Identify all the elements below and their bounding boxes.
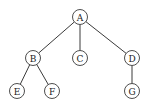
node-e: E <box>10 84 25 99</box>
edge-b-e <box>20 65 29 85</box>
node-label: B <box>30 54 37 64</box>
node-f: F <box>45 84 60 99</box>
node-c: C <box>73 51 88 66</box>
edge-a-d <box>86 22 126 54</box>
node-b: B <box>26 51 41 66</box>
edge-b-f <box>37 64 49 84</box>
tree-diagram: ABCDEFG <box>0 0 148 110</box>
node-label: G <box>128 87 135 97</box>
node-g: G <box>125 84 140 99</box>
node-label: F <box>49 87 55 97</box>
node-label: A <box>76 13 84 23</box>
node-label: E <box>14 87 21 97</box>
tree-nodes: ABCDEFG <box>10 10 140 99</box>
node-label: D <box>128 54 135 64</box>
edge-a-b <box>39 22 75 53</box>
node-d: D <box>125 51 140 66</box>
node-a: A <box>73 10 88 25</box>
node-label: C <box>77 54 84 64</box>
